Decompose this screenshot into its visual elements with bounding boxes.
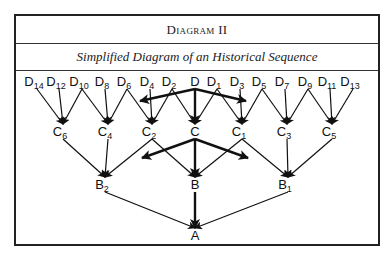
node-c4: C4: [98, 124, 112, 141]
edges-layer: [37, 89, 353, 228]
edge-arrow: [105, 192, 195, 228]
edge-arrow: [195, 192, 288, 228]
node-subscript: 13: [350, 81, 360, 91]
node-subscript: 5: [331, 131, 336, 141]
sequence-diagram: D14D12D10D8D6D4D2DD1D3D5D7D9D11D13C6C4C2…: [0, 0, 391, 259]
node-subscript: 1: [241, 131, 246, 141]
edge-arrow: [142, 139, 195, 158]
edge-arrow: [105, 139, 108, 177]
node-d10: D10: [69, 74, 88, 91]
node-subscript: 1: [216, 81, 221, 91]
node-subscript: 11: [327, 81, 336, 91]
node-b: B: [191, 177, 200, 192]
node-d12: D12: [46, 74, 65, 91]
node-b1: B1: [278, 177, 292, 194]
node-subscript: 6: [126, 81, 131, 91]
node-c2: C2: [142, 124, 156, 141]
node-d3: D3: [230, 74, 244, 91]
edge-arrow: [127, 89, 152, 124]
node-subscript: 2: [151, 131, 156, 141]
node-d6: D6: [117, 74, 131, 91]
edge-arrow: [308, 89, 332, 124]
edge-arrow: [332, 89, 353, 124]
node-c: C: [190, 124, 199, 139]
node-c1: C1: [232, 124, 246, 141]
node-d9: D9: [298, 74, 312, 91]
edge-arrow: [82, 89, 108, 124]
edge-arrow: [287, 139, 288, 177]
node-b2: B2: [95, 177, 109, 194]
edge-arrow: [240, 89, 242, 124]
edge-arrow: [150, 89, 152, 124]
node-subscript: 14: [34, 81, 44, 91]
edge-arrow: [63, 89, 82, 124]
node-c5: C5: [322, 124, 336, 141]
node-d5: D5: [252, 74, 266, 91]
node-subscript: 12: [56, 81, 66, 91]
node-subscript: 1: [287, 184, 292, 194]
node-a: A: [191, 228, 200, 243]
edge-arrow: [262, 89, 287, 124]
node-d1: D1: [207, 74, 221, 91]
edge-arrow: [108, 89, 127, 124]
node-subscript: 8: [104, 81, 109, 91]
edge-arrow: [242, 89, 262, 124]
node-c6: C6: [53, 124, 67, 141]
edge-arrow: [195, 139, 242, 177]
node-d13: D13: [340, 74, 359, 91]
node-subscript: 4: [107, 131, 112, 141]
node-subscript: 7: [284, 81, 289, 91]
node-subscript: 10: [79, 81, 89, 91]
edge-arrow: [242, 139, 288, 177]
node-c3: C3: [277, 124, 291, 141]
edge-arrow: [330, 89, 332, 124]
node-subscript: 4: [149, 81, 154, 91]
node-d8: D8: [95, 74, 109, 91]
node-subscript: 3: [239, 81, 244, 91]
node-subscript: 2: [171, 81, 176, 91]
node-d2: D2: [162, 74, 176, 91]
node-subscript: 9: [307, 81, 312, 91]
node-subscript: 5: [261, 81, 266, 91]
edge-arrow: [287, 89, 308, 124]
node-d: D: [190, 74, 199, 89]
edge-arrow: [285, 89, 287, 124]
node-d7: D7: [275, 74, 289, 91]
edge-arrow: [152, 139, 195, 177]
node-d4: D4: [140, 74, 154, 91]
edge-arrow: [63, 139, 105, 177]
node-subscript: 3: [286, 131, 291, 141]
edge-arrow: [288, 139, 332, 177]
node-subscript: 6: [62, 131, 67, 141]
edge-arrow: [105, 89, 108, 124]
node-subscript: 2: [104, 184, 109, 194]
node-d14: D14: [24, 74, 43, 91]
node-d11: D11: [318, 74, 337, 91]
